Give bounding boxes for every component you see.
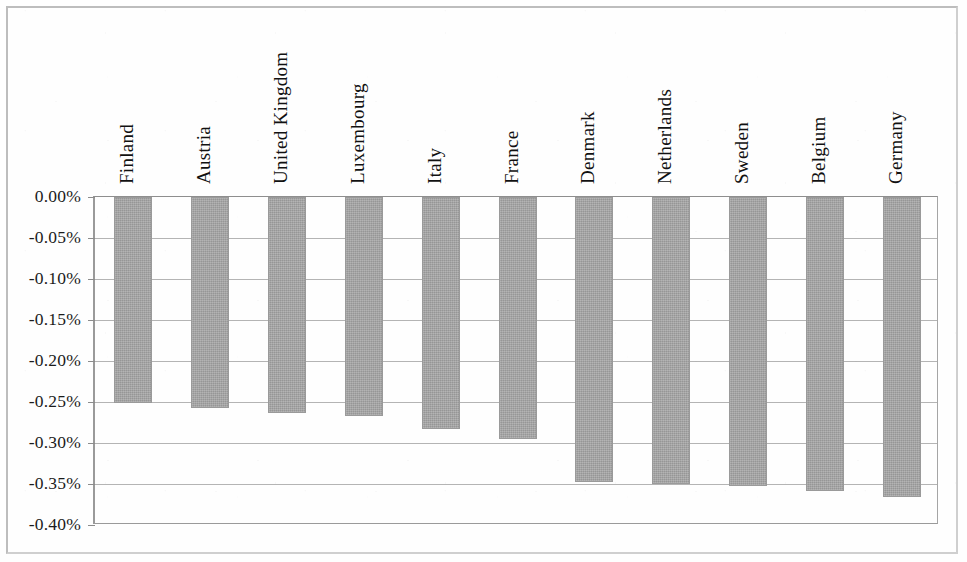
y-axis-tick (88, 402, 95, 403)
y-axis-tick-label: -0.40% (29, 514, 81, 535)
category-label-finland: Finland (116, 124, 138, 184)
bar-austria (191, 197, 229, 408)
category-label-germany: Germany (885, 111, 907, 184)
category-label-france: France (501, 131, 523, 185)
bar-luxembourg (345, 197, 383, 416)
bar-france (499, 197, 537, 439)
y-axis-tick-label: -0.35% (29, 473, 81, 494)
bar-italy (422, 197, 460, 429)
category-label-belgium: Belgium (808, 116, 830, 184)
bar-united-kingdom (268, 197, 306, 413)
y-axis-tick-label: -0.05% (29, 227, 81, 248)
bar-denmark (575, 197, 613, 482)
y-axis-tick (88, 525, 95, 526)
x-axis-category-labels: FinlandAustriaUnited KingdomLuxembourgIt… (93, 0, 938, 190)
y-axis-tick (88, 484, 95, 485)
y-axis-tick-label: -0.10% (29, 268, 81, 289)
y-axis-tick-label: 0.00% (35, 186, 81, 207)
category-label-luxembourg: Luxembourg (347, 83, 369, 184)
plot-area (93, 196, 938, 524)
y-axis-tick-label: -0.30% (29, 432, 81, 453)
bar-belgium (806, 197, 844, 491)
bar-germany (883, 197, 921, 497)
bar-sweden (729, 197, 767, 486)
y-axis-tick-label: -0.15% (29, 309, 81, 330)
bar-finland (114, 197, 152, 403)
y-axis-tick (88, 443, 95, 444)
y-axis-tick (88, 279, 95, 280)
category-label-denmark: Denmark (577, 111, 599, 184)
y-axis-tick (88, 238, 95, 239)
y-axis-tick-labels: 0.00%-0.05%-0.10%-0.15%-0.20%-0.25%-0.30… (0, 0, 81, 562)
category-label-austria: Austria (193, 126, 215, 184)
y-axis-tick (88, 197, 95, 198)
y-axis-tick (88, 320, 95, 321)
y-axis-tick-label: -0.25% (29, 391, 81, 412)
category-label-united-kingdom: United Kingdom (270, 52, 292, 184)
y-axis-tick-label: -0.20% (29, 350, 81, 371)
category-label-italy: Italy (424, 148, 446, 184)
bar-netherlands (652, 197, 690, 484)
y-axis-tick (88, 361, 95, 362)
chart-figure: FinlandAustriaUnited KingdomLuxembourgIt… (0, 0, 967, 562)
category-label-sweden: Sweden (731, 122, 753, 184)
category-label-netherlands: Netherlands (654, 89, 676, 184)
